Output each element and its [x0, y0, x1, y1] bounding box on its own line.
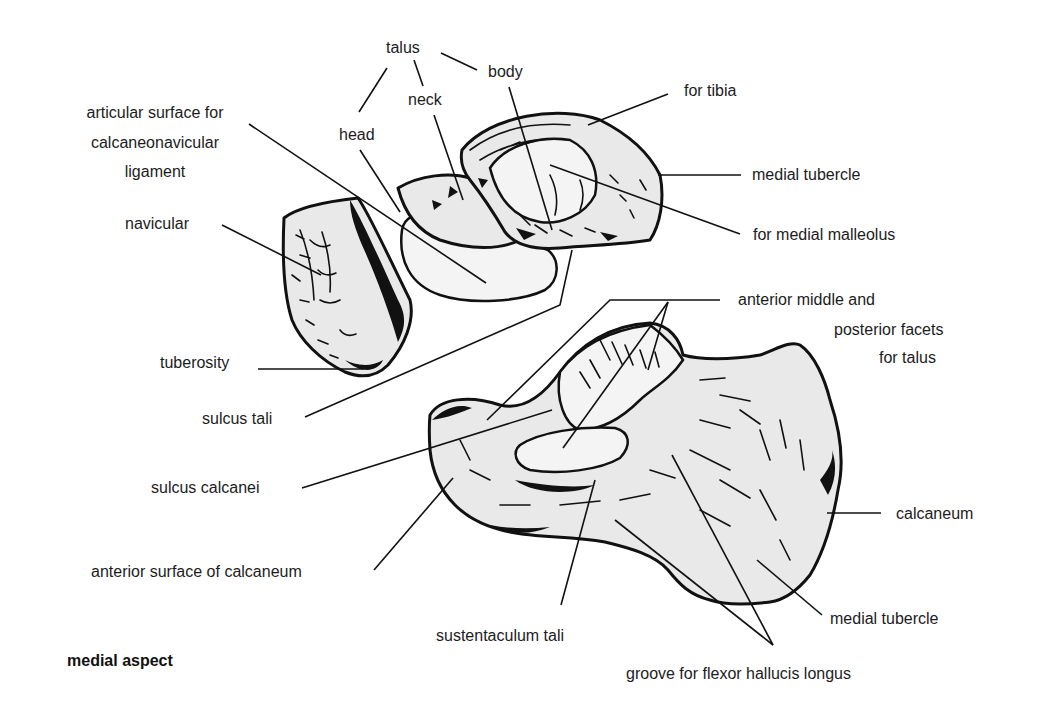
label-medial-tubercle-calcaneum: medial tubercle: [830, 609, 939, 629]
label-sulcus-tali: sulcus tali: [202, 409, 272, 429]
label-anterior-surface-calcaneum: anterior surface of calcaneum: [91, 562, 302, 582]
label-tuberosity: tuberosity: [160, 353, 229, 373]
label-facets-line2: posterior facets: [834, 320, 943, 340]
label-for-tibia: for tibia: [684, 81, 736, 101]
label-talus-body: body: [488, 62, 523, 82]
talus-bone: [398, 113, 662, 301]
calcaneum-bone: [429, 323, 841, 604]
navicular-bone: [283, 198, 411, 376]
label-sustentaculum-tali: sustentaculum tali: [436, 626, 564, 646]
label-talus-head: head: [339, 125, 375, 145]
label-articular-surface-line2: calcaneonavicular: [60, 133, 250, 153]
label-talus: talus: [386, 38, 420, 58]
figure-caption: medial aspect: [67, 652, 173, 670]
label-for-medial-malleolus: for medial malleolus: [753, 225, 895, 245]
label-facets-line1: anterior middle and: [738, 290, 875, 310]
label-groove-flexor-hallucis-longus: groove for flexor hallucis longus: [626, 664, 851, 684]
label-articular-surface-line1: articular surface for: [60, 103, 250, 123]
label-articular-surface-line3: ligament: [60, 162, 250, 182]
label-sulcus-calcanei: sulcus calcanei: [151, 478, 260, 498]
label-talus-neck: neck: [408, 90, 442, 110]
anatomy-figure: talus body neck head articular surface f…: [0, 0, 1041, 722]
label-facets-line3: for talus: [879, 348, 936, 368]
label-medial-tubercle-talus: medial tubercle: [752, 165, 861, 185]
label-navicular: navicular: [125, 214, 189, 234]
label-calcaneum: calcaneum: [896, 504, 973, 524]
